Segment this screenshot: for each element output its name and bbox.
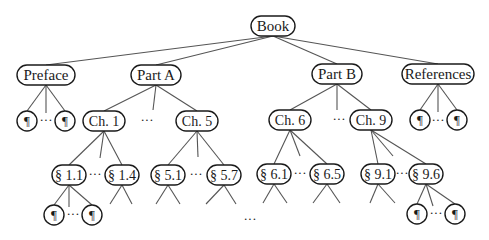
edge-refs-r1 [420, 84, 438, 110]
node-s96: § 9.6 [409, 164, 443, 184]
stub-edge [371, 130, 393, 156]
dots-preface: ··· [40, 112, 53, 127]
book-structure-tree: BookPrefacePart APart BReferences¶¶Ch. 1… [0, 0, 489, 240]
node-label: § 6.5 [313, 167, 341, 182]
node-label: § 5.1 [154, 168, 182, 183]
edge-s96-q3 [417, 184, 426, 204]
node-label: ¶ [452, 206, 458, 221]
stub-edge [122, 185, 132, 204]
node-p2: ¶ [55, 111, 75, 131]
stub-edge [426, 184, 433, 206]
node-label: ¶ [24, 113, 30, 128]
node-label: References [405, 66, 472, 82]
stub-edge [197, 131, 198, 157]
node-label: ¶ [417, 112, 423, 127]
edge-ch6-s65 [290, 130, 327, 164]
stub-edge [224, 185, 236, 204]
dots-partB: ··· [333, 111, 346, 126]
node-s65: § 6.5 [310, 164, 344, 184]
node-ch9: Ch. 9 [350, 110, 392, 130]
edge-book-refs [273, 36, 438, 64]
stub-edge [263, 184, 274, 203]
edge-ch5-s57 [197, 131, 224, 165]
node-label: § 9.1 [364, 167, 392, 182]
node-label: ¶ [62, 113, 68, 128]
tree-stub-edges [46, 84, 438, 207]
node-s14: § 1.4 [105, 165, 139, 185]
dots-bottom: ··· [244, 211, 257, 226]
dots-ch9: ··· [396, 165, 409, 180]
node-label: § 5.7 [210, 168, 238, 183]
edge-s11-q1 [54, 185, 69, 205]
node-label: ¶ [454, 112, 460, 127]
edge-preface-p1 [27, 85, 46, 111]
edge-refs-r2 [438, 84, 457, 110]
node-s51: § 5.1 [151, 165, 185, 185]
node-label: Ch. 6 [275, 113, 305, 128]
node-r2: ¶ [447, 110, 467, 130]
node-preface: Preface [17, 65, 75, 85]
edge-ch5-s51 [168, 131, 197, 165]
node-p1: ¶ [17, 111, 37, 131]
edge-preface-p2 [46, 85, 65, 111]
dots-partA: ··· [141, 112, 154, 127]
node-label: § 6.1 [260, 167, 288, 182]
edge-ch1-s11 [69, 131, 104, 165]
node-label: Preface [24, 67, 69, 83]
dots-s96: ··· [430, 205, 443, 220]
node-partB: Part B [312, 64, 362, 84]
node-label: Part A [137, 67, 175, 83]
node-label: Ch. 1 [89, 114, 119, 129]
dots-ch5: ··· [190, 166, 203, 181]
node-refs: References [402, 64, 474, 84]
node-s91: § 9.1 [361, 164, 395, 184]
node-label: § 1.1 [55, 168, 83, 183]
node-label: ¶ [51, 207, 57, 222]
stub-edge [168, 185, 180, 204]
node-label: Part B [318, 66, 356, 82]
dots-ch6: ··· [294, 165, 307, 180]
stub-edge [327, 184, 340, 203]
node-ch1: Ch. 1 [83, 111, 125, 131]
node-ch6: Ch. 6 [269, 110, 311, 130]
stub-edge [206, 185, 224, 204]
stub-edge [313, 184, 327, 203]
edge-s96-q4 [426, 184, 455, 204]
node-label: Ch. 5 [182, 114, 212, 129]
edge-ch9-s96 [371, 130, 426, 164]
node-q4: ¶ [445, 204, 465, 224]
node-q2: ¶ [82, 205, 102, 225]
edge-partB-ch9 [337, 84, 371, 110]
stub-edge [156, 185, 168, 204]
node-r1: ¶ [410, 110, 430, 130]
node-label: § 9.6 [412, 167, 440, 182]
dots-refs: ··· [432, 112, 445, 127]
edge-ch9-s91 [371, 130, 378, 164]
node-ch5: Ch. 5 [176, 111, 218, 131]
stub-edge [274, 184, 287, 203]
edge-ch1-s14 [104, 131, 122, 165]
stub-edge [153, 85, 156, 110]
node-book: Book [251, 16, 295, 36]
node-label: Book [257, 18, 290, 34]
node-q3: ¶ [407, 204, 427, 224]
node-q1: ¶ [44, 205, 64, 225]
stub-edge [370, 184, 378, 203]
node-label: ¶ [414, 206, 420, 221]
node-label: Ch. 9 [356, 113, 386, 128]
edge-s11-q2 [69, 185, 92, 205]
stub-edge [110, 185, 122, 204]
node-s11: § 1.1 [52, 165, 86, 185]
edge-partB-ch6 [290, 84, 337, 110]
node-label: ¶ [89, 207, 95, 222]
edge-partA-ch1 [104, 85, 156, 111]
edge-book-partA [156, 36, 273, 65]
dots-ch1: ··· [89, 166, 102, 181]
node-s57: § 5.7 [207, 165, 241, 185]
tree-nodes: BookPrefacePart APart BReferences¶¶Ch. 1… [17, 16, 474, 225]
node-s61: § 6.1 [257, 164, 291, 184]
dots-s11: ··· [67, 206, 80, 221]
edge-book-partB [273, 36, 337, 64]
node-label: § 1.4 [108, 168, 136, 183]
node-partA: Part A [131, 65, 181, 85]
